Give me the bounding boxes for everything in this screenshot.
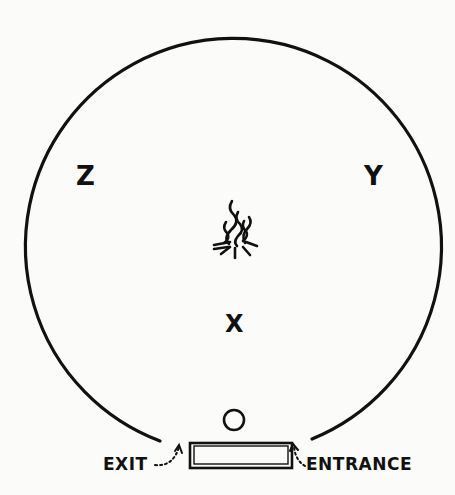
exit-label: EXIT	[103, 456, 148, 473]
diagram-canvas	[0, 0, 455, 495]
campfire-icon	[214, 201, 257, 258]
entrance-label: ENTRANCE	[306, 456, 412, 473]
position-o-marker	[224, 410, 244, 430]
doorway-rectangle	[190, 443, 292, 468]
position-x-label: X	[225, 312, 244, 336]
lodge-circle	[25, 38, 441, 441]
position-z-label: Z	[76, 163, 95, 189]
position-y-label: Y	[364, 163, 383, 189]
exit-arrow-icon	[155, 445, 182, 465]
